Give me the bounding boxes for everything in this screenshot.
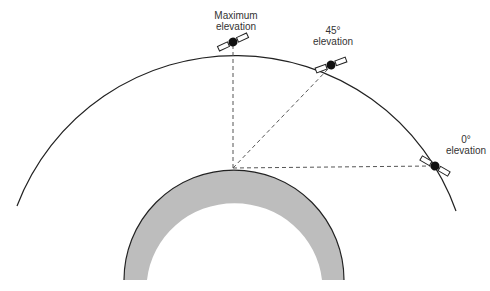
label-0-elevation: 0° elevation bbox=[443, 134, 489, 156]
label-text: elevation bbox=[208, 21, 264, 32]
label-text: elevation bbox=[443, 145, 489, 156]
satellite-icon bbox=[314, 55, 347, 74]
satellite-icon bbox=[217, 31, 250, 53]
label-text: 45° bbox=[310, 25, 356, 36]
line-of-sight-0 bbox=[233, 166, 432, 168]
label-text: Maximum bbox=[208, 10, 264, 21]
diagram-canvas bbox=[0, 0, 490, 291]
label-text: elevation bbox=[310, 36, 356, 47]
label-maximum-elevation: Maximum elevation bbox=[208, 10, 264, 32]
earth-cross-section bbox=[124, 170, 344, 280]
label-text: 0° bbox=[443, 134, 489, 145]
line-of-sight-45 bbox=[233, 68, 329, 168]
label-45-elevation: 45° elevation bbox=[310, 25, 356, 47]
